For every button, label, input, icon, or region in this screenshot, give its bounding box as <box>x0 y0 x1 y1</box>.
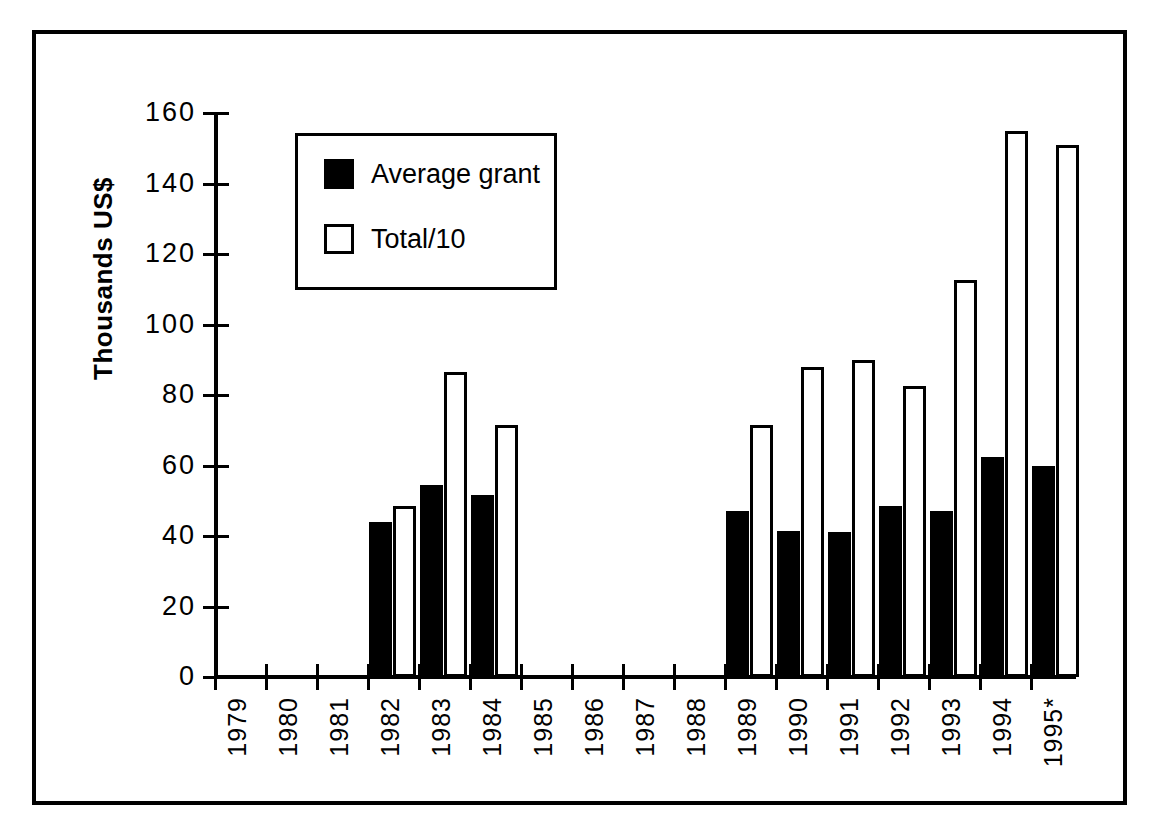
x-tick-label: 1982 <box>378 697 403 757</box>
y-tick-mark <box>203 183 229 186</box>
x-tick-label: 1989 <box>735 697 760 757</box>
y-tick-label: 140 <box>110 170 196 197</box>
bar-average-grant <box>828 532 851 677</box>
chart-legend: Average grant Total/10 <box>295 133 557 290</box>
bar-total-div10 <box>852 360 875 677</box>
y-tick-label: 80 <box>110 381 196 408</box>
x-tick-label: 1987 <box>633 697 658 757</box>
bar-total-div10 <box>1005 131 1028 677</box>
x-tick-label: 1988 <box>684 697 709 757</box>
bar-total-div10 <box>903 386 926 677</box>
bar-total-div10 <box>954 280 977 677</box>
plot-area: Thousands US$ 020406080100120140160 1979… <box>0 0 1158 839</box>
legend-item-total-div10: Total/10 <box>324 224 466 254</box>
x-tick-label: 1981 <box>327 697 352 757</box>
bar-total-div10 <box>750 425 773 677</box>
x-tick-label: 1979 <box>225 697 250 757</box>
legend-swatch-filled-square <box>324 159 354 189</box>
y-tick-mark <box>203 394 229 397</box>
y-tick-label: 100 <box>110 311 196 338</box>
x-tick-label: 1985 <box>531 697 556 757</box>
y-tick-mark <box>203 324 229 327</box>
x-tick-mark <box>265 664 268 690</box>
bar-average-grant <box>879 506 902 677</box>
bar-total-div10 <box>444 372 467 677</box>
bar-total-div10 <box>1056 145 1079 677</box>
x-tick-label: 1992 <box>888 697 913 757</box>
y-tick-mark <box>203 112 229 115</box>
x-tick-label: 1986 <box>582 697 607 757</box>
x-tick-label: 1980 <box>276 697 301 757</box>
y-tick-mark <box>203 465 229 468</box>
bar-total-div10 <box>495 425 518 677</box>
bar-total-div10 <box>801 367 824 677</box>
bar-average-grant <box>981 457 1004 677</box>
bar-average-grant <box>369 522 392 677</box>
x-tick-mark <box>316 664 319 690</box>
x-tick-label: 1984 <box>480 697 505 757</box>
y-tick-mark <box>203 253 229 256</box>
x-tick-label: 1994 <box>990 697 1015 757</box>
x-tick-mark <box>214 664 217 690</box>
y-axis-title: Thousands US$ <box>88 177 119 380</box>
y-tick-label: 120 <box>110 240 196 267</box>
y-tick-mark <box>203 606 229 609</box>
y-tick-label: 0 <box>110 663 196 690</box>
x-tick-label: 1983 <box>429 697 454 757</box>
bar-average-grant <box>930 511 953 677</box>
y-tick-mark <box>203 535 229 538</box>
x-tick-label: 1990 <box>786 697 811 757</box>
figure-root: Thousands US$ 020406080100120140160 1979… <box>0 0 1158 839</box>
x-tick-label: 1995* <box>1041 697 1066 767</box>
legend-item-average-grant: Average grant <box>324 159 540 189</box>
x-tick-mark <box>571 664 574 690</box>
legend-label-total-div10: Total/10 <box>371 226 466 253</box>
legend-swatch-open-square <box>324 224 354 254</box>
bar-average-grant <box>1032 466 1055 678</box>
bar-average-grant <box>777 531 800 677</box>
bar-average-grant <box>420 485 443 677</box>
y-tick-label: 40 <box>110 522 196 549</box>
x-tick-mark <box>673 664 676 690</box>
bar-total-div10 <box>393 506 416 677</box>
x-tick-mark <box>520 664 523 690</box>
bar-average-grant <box>471 495 494 677</box>
x-tick-label: 1991 <box>837 697 862 757</box>
x-tick-label: 1993 <box>939 697 964 757</box>
y-tick-label: 60 <box>110 452 196 479</box>
y-tick-label: 160 <box>110 99 196 126</box>
x-tick-mark <box>622 664 625 690</box>
legend-label-average-grant: Average grant <box>371 161 540 188</box>
bar-average-grant <box>726 511 749 677</box>
y-tick-label: 20 <box>110 593 196 620</box>
